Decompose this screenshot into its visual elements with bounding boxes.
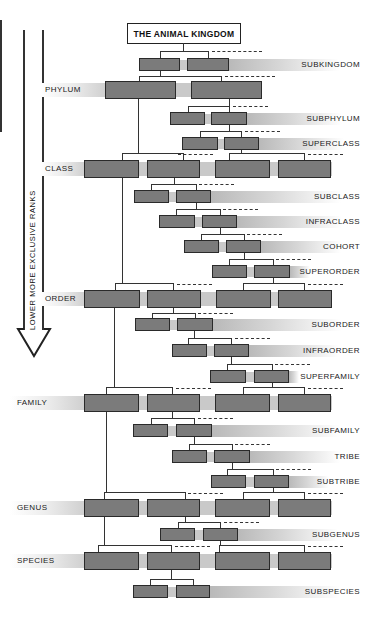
taxon-box bbox=[182, 137, 218, 150]
taxon-box bbox=[211, 475, 246, 488]
taxon-box bbox=[176, 585, 210, 598]
rank-label-subkingdom: SUBKINGDOM bbox=[301, 60, 360, 69]
rank-label-superclass: SUPERCLASS bbox=[302, 139, 360, 148]
taxon-box bbox=[84, 394, 139, 412]
taxon-box bbox=[147, 290, 201, 308]
taxon-box bbox=[133, 424, 168, 437]
taxon-box bbox=[184, 240, 219, 253]
rank-label-order: ORDER bbox=[45, 294, 76, 303]
taxon-box bbox=[278, 499, 331, 517]
taxon-box bbox=[139, 58, 180, 71]
taxon-box bbox=[215, 394, 270, 412]
taxon-box bbox=[278, 290, 332, 308]
rank-label-species: SPECIES bbox=[17, 556, 54, 565]
taxon-box bbox=[211, 112, 247, 125]
taxon-box bbox=[147, 552, 200, 570]
taxon-box bbox=[254, 265, 290, 278]
rank-label-subgenus: SUBGENUS bbox=[312, 530, 360, 539]
taxonomy-diagram: LOWER MORE EXCLUSIVE RANKS THE ANIMAL KI… bbox=[0, 0, 372, 618]
rank-label-family: FAMILY bbox=[17, 398, 47, 407]
taxon-box bbox=[176, 190, 211, 203]
taxon-box bbox=[135, 318, 170, 331]
taxon-box bbox=[147, 394, 200, 412]
taxon-box bbox=[84, 290, 140, 308]
taxon-box bbox=[172, 344, 207, 357]
rank-label-class: CLASS bbox=[45, 164, 73, 173]
taxon-box bbox=[215, 160, 270, 178]
taxon-box bbox=[176, 424, 212, 437]
rank-label-subtribe: SUBTRIBE bbox=[317, 477, 360, 486]
rank-label-suborder: SUBORDER bbox=[311, 320, 360, 329]
taxon-box bbox=[170, 112, 205, 125]
taxon-box bbox=[226, 240, 261, 253]
rank-label-genus: GENUS bbox=[17, 503, 47, 512]
taxon-box bbox=[84, 499, 139, 517]
rank-label-superfamily: SUPERFAMILY bbox=[300, 372, 360, 381]
taxon-box bbox=[202, 215, 237, 228]
rank-label-subspecies: SUBSPECIES bbox=[305, 587, 360, 596]
taxon-box bbox=[84, 552, 139, 570]
taxon-box bbox=[160, 528, 195, 541]
taxon-box bbox=[278, 394, 331, 412]
taxon-box bbox=[177, 318, 213, 331]
taxon-box bbox=[203, 528, 238, 541]
taxon-box bbox=[147, 499, 200, 517]
taxon-box bbox=[187, 58, 229, 71]
taxon-box bbox=[147, 160, 200, 178]
taxon-box bbox=[105, 81, 176, 99]
rank-label-superorder: SUPERORDER bbox=[300, 267, 360, 276]
page-title: THE ANIMAL KINGDOM bbox=[127, 23, 241, 44]
rank-label-infraorder: INFRAORDER bbox=[303, 346, 360, 355]
taxon-box bbox=[159, 215, 195, 228]
taxon-box bbox=[215, 552, 270, 570]
taxon-box bbox=[214, 450, 250, 463]
rank-label-phylum: PHYLUM bbox=[45, 85, 81, 94]
rank-label-subphylum: SUBPHYLUM bbox=[307, 114, 360, 123]
taxon-box bbox=[278, 160, 331, 178]
taxon-box bbox=[134, 190, 169, 203]
edge-mark bbox=[0, 20, 2, 132]
taxon-box bbox=[216, 290, 271, 308]
taxon-box bbox=[254, 370, 289, 383]
taxon-box bbox=[210, 370, 246, 383]
taxon-box bbox=[212, 265, 247, 278]
taxon-box bbox=[133, 585, 168, 598]
rank-label-subfamily: SUBFAMILY bbox=[312, 426, 360, 435]
taxon-box bbox=[214, 344, 249, 357]
taxon-box bbox=[172, 450, 207, 463]
rank-label-cohort: COHORT bbox=[323, 242, 360, 251]
taxon-box bbox=[191, 81, 262, 99]
taxon-box bbox=[224, 137, 259, 150]
taxon-box bbox=[215, 499, 270, 517]
taxon-box bbox=[84, 160, 139, 178]
arrow-label: LOWER MORE EXCLUSIVE RANKS bbox=[28, 190, 37, 330]
rank-label-infraclass: INFRACLASS bbox=[306, 217, 360, 226]
rank-label-tribe: TRIBE bbox=[334, 452, 360, 461]
rank-label-subclass: SUBCLASS bbox=[314, 192, 360, 201]
taxon-box bbox=[254, 475, 289, 488]
taxon-box bbox=[278, 552, 331, 570]
